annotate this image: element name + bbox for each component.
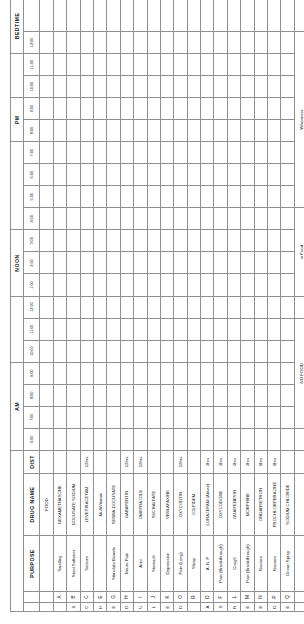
grid-cell[interactable]: [227, 428, 240, 450]
grid-cell[interactable]: [147, 252, 160, 274]
grid-cell[interactable]: [268, 318, 281, 340]
grid-cell[interactable]: [120, 340, 133, 362]
grid-cell[interactable]: [241, 31, 254, 53]
grid-cell[interactable]: [214, 186, 227, 208]
grid-cell[interactable]: [187, 318, 200, 340]
grid-cell[interactable]: [174, 318, 187, 340]
grid-cell[interactable]: [53, 230, 66, 252]
grid-cell[interactable]: [174, 98, 187, 120]
grid-cell[interactable]: [107, 142, 120, 164]
grid-cell[interactable]: [93, 142, 106, 164]
grid-cell[interactable]: [67, 98, 80, 120]
grid-cell[interactable]: [254, 318, 267, 340]
grid-cell[interactable]: [107, 252, 120, 274]
grid-cell[interactable]: [93, 230, 106, 252]
grid-cell[interactable]: [227, 164, 240, 186]
grid-cell[interactable]: [134, 406, 147, 428]
grid-cell[interactable]: [147, 340, 160, 362]
grid-cell[interactable]: [80, 98, 93, 120]
grid-cell[interactable]: [134, 186, 147, 208]
grid-cell[interactable]: [214, 318, 227, 340]
grid-cell[interactable]: [160, 186, 173, 208]
grid-cell[interactable]: [227, 296, 240, 318]
grid-cell[interactable]: [201, 31, 214, 53]
grid-cell[interactable]: [281, 208, 294, 230]
grid-cell[interactable]: [93, 428, 106, 450]
grid-cell[interactable]: [147, 76, 160, 98]
grid-cell[interactable]: [227, 120, 240, 142]
grid-cell[interactable]: [120, 318, 133, 340]
grid-cell[interactable]: [80, 76, 93, 98]
grid-cell[interactable]: [134, 53, 147, 75]
grid-cell[interactable]: [187, 142, 200, 164]
grid-cell[interactable]: [93, 208, 106, 230]
grid-cell[interactable]: [254, 98, 267, 120]
grid-cell[interactable]: [93, 120, 106, 142]
grid-cell[interactable]: [187, 428, 200, 450]
dose-marker-cell[interactable]: [53, 384, 66, 406]
grid-cell[interactable]: [174, 53, 187, 75]
grid-cell[interactable]: [254, 362, 267, 384]
grid-cell[interactable]: [67, 428, 80, 450]
grid-cell[interactable]: [187, 76, 200, 98]
grid-cell[interactable]: [227, 274, 240, 296]
grid-cell[interactable]: [120, 230, 133, 252]
grid-cell[interactable]: [134, 296, 147, 318]
grid-cell[interactable]: [107, 362, 120, 384]
grid-cell[interactable]: [80, 142, 93, 164]
grid-cell[interactable]: [160, 208, 173, 230]
grid-cell[interactable]: [241, 340, 254, 362]
grid-cell[interactable]: [160, 53, 173, 75]
grid-cell[interactable]: [214, 98, 227, 120]
grid-cell[interactable]: [268, 362, 281, 384]
grid-cell[interactable]: [160, 274, 173, 296]
grid-cell[interactable]: [227, 31, 240, 53]
grid-cell[interactable]: [147, 142, 160, 164]
grid-cell[interactable]: [53, 274, 66, 296]
grid-cell[interactable]: [174, 384, 187, 406]
grid-cell[interactable]: [281, 142, 294, 164]
dose-marker-cell[interactable]: [107, 120, 120, 142]
grid-cell[interactable]: [160, 31, 173, 53]
grid-cell[interactable]: [227, 252, 240, 274]
grid-cell[interactable]: [53, 362, 66, 384]
grid-cell[interactable]: [147, 31, 160, 53]
grid-cell[interactable]: [214, 76, 227, 98]
grid-cell[interactable]: [174, 31, 187, 53]
grid-cell[interactable]: [268, 186, 281, 208]
grid-cell[interactable]: [201, 186, 214, 208]
grid-cell[interactable]: [174, 120, 187, 142]
grid-cell[interactable]: [67, 406, 80, 428]
grid-cell[interactable]: [120, 362, 133, 384]
grid-cell[interactable]: [93, 274, 106, 296]
grid-cell[interactable]: [134, 98, 147, 120]
dose-marker-cell[interactable]: [107, 406, 120, 428]
grid-cell[interactable]: [227, 142, 240, 164]
grid-cell[interactable]: [53, 296, 66, 318]
grid-cell[interactable]: [254, 31, 267, 53]
grid-cell[interactable]: [67, 53, 80, 75]
grid-cell[interactable]: [80, 164, 93, 186]
grid-cell[interactable]: [201, 340, 214, 362]
grid-cell[interactable]: [67, 76, 80, 98]
grid-cell[interactable]: [93, 53, 106, 75]
grid-cell[interactable]: [201, 406, 214, 428]
grid-cell[interactable]: [53, 31, 66, 53]
grid-cell[interactable]: [120, 164, 133, 186]
grid-cell[interactable]: [107, 164, 120, 186]
grid-cell[interactable]: [53, 208, 66, 230]
grid-cell[interactable]: [67, 186, 80, 208]
grid-cell[interactable]: [107, 274, 120, 296]
grid-cell[interactable]: [53, 76, 66, 98]
grid-cell[interactable]: [120, 98, 133, 120]
grid-cell[interactable]: [227, 318, 240, 340]
grid-cell[interactable]: [67, 340, 80, 362]
grid-cell[interactable]: [174, 252, 187, 274]
grid-cell[interactable]: [107, 296, 120, 318]
grid-cell[interactable]: [174, 274, 187, 296]
grid-cell[interactable]: [134, 120, 147, 142]
grid-cell[interactable]: [80, 340, 93, 362]
grid-cell[interactable]: [187, 31, 200, 53]
grid-cell[interactable]: [214, 362, 227, 384]
grid-cell[interactable]: [214, 384, 227, 406]
